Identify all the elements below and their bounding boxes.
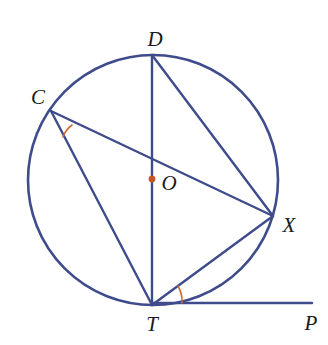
vertex-label-O: O — [161, 171, 176, 195]
vertex-label-D: D — [146, 27, 162, 51]
vertex-label-T: T — [146, 312, 159, 336]
angle-mark-at-C — [63, 125, 72, 137]
chord-CX — [51, 111, 273, 216]
angle-marks-group — [63, 125, 182, 303]
vertex-label-X: X — [282, 213, 297, 237]
segments-group — [51, 55, 312, 305]
angle-mark-at-T — [178, 286, 182, 303]
vertex-label-P: P — [304, 311, 318, 335]
center-point-dot — [149, 176, 156, 183]
circle-geometry-diagram: DCXTOP — [0, 0, 328, 345]
chord-CT — [51, 111, 152, 305]
vertex-label-C: C — [31, 85, 46, 109]
geometry-canvas: DCXTOP — [0, 0, 328, 345]
chord-TX — [152, 216, 273, 305]
